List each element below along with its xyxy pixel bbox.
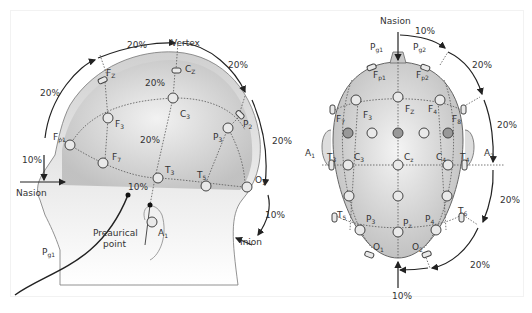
svg-text:20%: 20% <box>140 135 160 145</box>
electrode-f4 <box>435 95 445 105</box>
svg-text:10%: 10% <box>22 155 42 165</box>
svg-text:point: point <box>103 239 126 249</box>
svg-text:A1: A1 <box>305 148 315 159</box>
electrode-cz <box>172 68 181 73</box>
svg-text:Pg2: Pg2 <box>413 42 426 54</box>
electrode-t5 <box>201 181 211 191</box>
svg-text:Inion: Inion <box>240 237 262 247</box>
svg-text:10%: 10% <box>128 182 148 192</box>
electrode-c3 <box>343 160 353 170</box>
svg-text:Vertex: Vertex <box>171 38 201 48</box>
svg-text:20%: 20% <box>228 60 248 70</box>
electrode-cp3 <box>344 191 354 201</box>
electrode-f4-lower <box>443 128 453 138</box>
electrode-o2 <box>422 250 432 258</box>
electrode-fz <box>393 92 403 102</box>
svg-text:20%: 20% <box>500 195 520 205</box>
electrode-p3 <box>223 123 233 133</box>
electrode-pz <box>393 227 403 237</box>
svg-text:T5: T5 <box>336 210 347 221</box>
electrode-p4 <box>431 225 441 235</box>
electrode-cpz <box>393 191 403 201</box>
electrode-t3 <box>153 173 163 183</box>
eeg-10-20-diagram: 20% Vertex 20% 20% 20% 20% 20% 10% 10% 1… <box>0 0 532 313</box>
electrode-f7 <box>330 105 335 114</box>
electrode-f3-lower <box>343 128 353 138</box>
svg-text:20%: 20% <box>40 88 60 98</box>
electrode-fp1 <box>65 140 75 150</box>
electrode-f3 <box>351 95 361 105</box>
svg-text:O1: O1 <box>255 175 266 186</box>
svg-text:10%: 10% <box>392 291 412 301</box>
svg-text:20%: 20% <box>127 40 147 50</box>
electrode-fcz <box>393 128 403 138</box>
electrode-fc4 <box>419 128 429 138</box>
svg-text:Nasion: Nasion <box>16 188 47 198</box>
electrode-c3 <box>168 93 178 103</box>
electrode-f8 <box>461 105 466 114</box>
electrode-a1 <box>147 217 157 227</box>
pg1-dot <box>126 193 131 198</box>
electrode-cp4 <box>442 191 452 201</box>
electrode-o1 <box>242 182 252 192</box>
svg-text:20%: 20% <box>272 136 292 146</box>
svg-text:Nasion: Nasion <box>380 16 411 26</box>
svg-text:10%: 10% <box>265 210 285 220</box>
electrode-f7 <box>98 158 108 168</box>
svg-text:T6: T6 <box>457 206 468 217</box>
svg-text:20%: 20% <box>145 78 165 88</box>
svg-text:Pg1: Pg1 <box>370 42 383 54</box>
preaurical-dot <box>148 203 153 208</box>
svg-text:20%: 20% <box>497 120 517 130</box>
svg-text:10%: 10% <box>415 26 435 36</box>
svg-text:Pg1: Pg1 <box>42 247 55 259</box>
electrode-fc3 <box>367 128 377 138</box>
svg-text:20%: 20% <box>472 60 492 70</box>
svg-text:Preaurical: Preaurical <box>93 228 138 238</box>
electrode-cz <box>393 160 403 170</box>
electrode-f3 <box>103 113 113 123</box>
electrode-p3 <box>355 225 365 235</box>
svg-text:20%: 20% <box>470 260 490 270</box>
